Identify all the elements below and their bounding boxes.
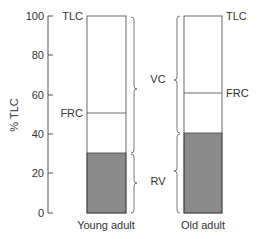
young-frc-label: FRC bbox=[60, 107, 83, 119]
young-tlc-label: TLC bbox=[62, 10, 83, 22]
young-brackets bbox=[131, 17, 137, 213]
young-adult-bar: TLC FRC Young adult bbox=[60, 10, 134, 231]
lung-volume-chart: 100 80 60 40 20 0 % TLC TLC FRC Young ad… bbox=[0, 0, 258, 239]
tick-0: 0 bbox=[38, 207, 44, 219]
tick-60: 60 bbox=[32, 89, 44, 101]
old-brackets bbox=[174, 16, 180, 213]
old-adult-bar: TLC FRC Old adult bbox=[181, 10, 249, 231]
vc-label: VC bbox=[150, 73, 165, 85]
tick-100: 100 bbox=[26, 10, 44, 22]
old-tlc-label: TLC bbox=[226, 10, 247, 22]
old-adult-label: Old adult bbox=[181, 219, 225, 231]
tick-20: 20 bbox=[32, 167, 44, 179]
tick-80: 80 bbox=[32, 49, 44, 61]
y-axis: 100 80 60 40 20 0 % TLC bbox=[8, 10, 53, 219]
rv-label: RV bbox=[150, 175, 166, 187]
old-frc-label: FRC bbox=[226, 87, 249, 99]
y-axis-label: % TLC bbox=[8, 98, 20, 131]
young-adult-label: Young adult bbox=[77, 219, 135, 231]
tick-40: 40 bbox=[32, 128, 44, 140]
